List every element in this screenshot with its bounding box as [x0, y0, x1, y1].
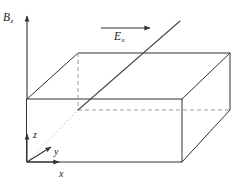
y-axis-arrow: [27, 147, 51, 162]
box-right-face: [182, 53, 230, 162]
box-hidden-edges: [78, 53, 230, 110]
diagonal-line: [78, 21, 180, 110]
z-axis-label: z: [33, 130, 37, 140]
e-field-label: Ex: [114, 31, 125, 44]
physics-box-diagram: Bz Ex x y z: [0, 0, 241, 184]
box-front-face: [27, 99, 182, 162]
b-field-subscript: z: [10, 17, 13, 25]
e-field-subscript: x: [121, 36, 125, 44]
y-axis-label: y: [54, 147, 58, 157]
box-top-face: [27, 53, 230, 99]
diagram-canvas: [0, 0, 241, 184]
diagonal-line-segment: [78, 21, 180, 110]
e-field-symbol: E: [114, 30, 121, 42]
b-field-label: Bz: [3, 12, 13, 25]
b-field-symbol: B: [3, 11, 10, 23]
x-axis-label: x: [59, 169, 63, 179]
